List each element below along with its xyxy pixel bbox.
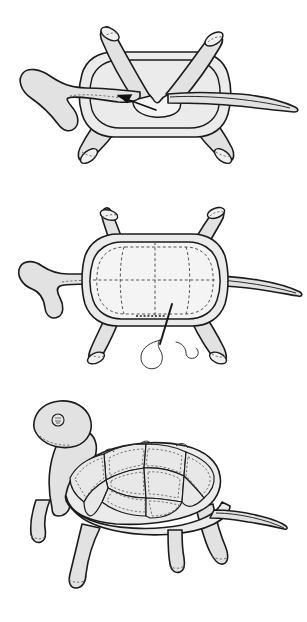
leg-front-left: [69, 524, 100, 588]
step-1-attach-limbs: [0, 0, 307, 190]
thread-loop: [141, 338, 198, 369]
shell-top: [90, 242, 220, 319]
leg-front-right: [31, 500, 50, 543]
step-2-figure: [0, 190, 307, 390]
step-1-figure: [0, 0, 307, 190]
eye: [52, 414, 64, 426]
illustration-sheet: [0, 0, 307, 622]
leg-back-left: [168, 530, 185, 573]
step-3-finished-turtle: [0, 390, 307, 622]
step-2-stitch-shell: [0, 190, 307, 390]
step-3-figure: [0, 390, 307, 622]
